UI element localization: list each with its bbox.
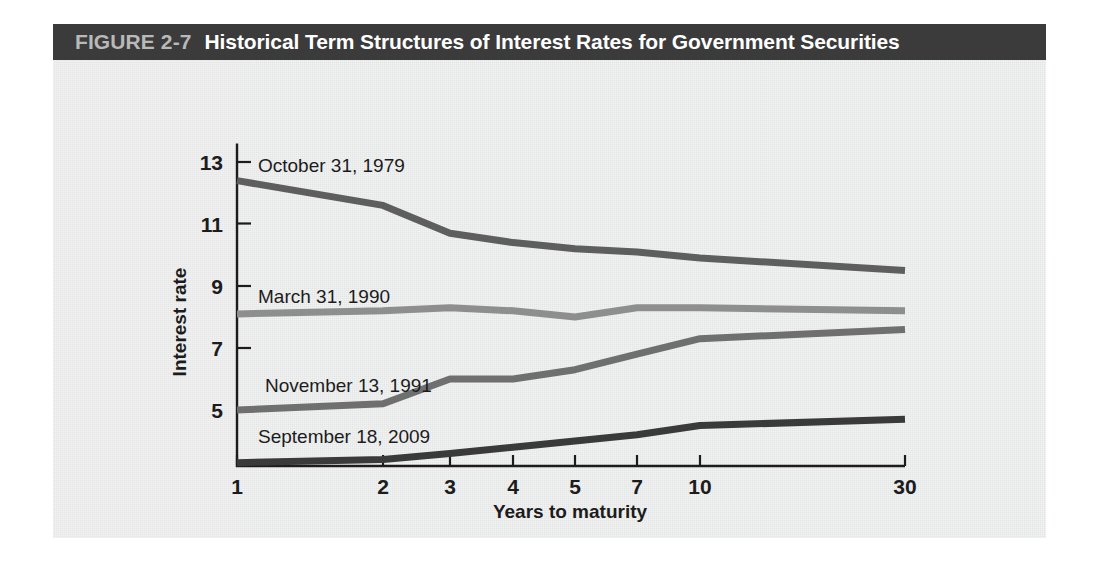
series-line-1 [237, 308, 905, 317]
y-tick-label-11: 11 [201, 213, 224, 236]
x-tick-label-30: 30 [893, 475, 916, 498]
x-tick-label-5: 5 [569, 475, 581, 498]
x-tick-label-3: 3 [444, 475, 456, 498]
x-axis-tick-labels: 1234571030 [231, 475, 917, 498]
figure-root: FIGURE 2-7 Historical Term Structures of… [0, 0, 1100, 582]
x-tick-label-2: 2 [377, 475, 389, 498]
series-label-1: March 31, 1990 [258, 286, 390, 307]
x-tick-label-10: 10 [688, 475, 711, 498]
series-line-0 [237, 181, 905, 271]
series-label-3: September 18, 2009 [258, 426, 430, 447]
y-tick-label-5: 5 [211, 399, 223, 422]
chart-plot-area: 1234571030 5791113 Years to maturity Int… [0, 0, 1100, 582]
y-tick-label-7: 7 [211, 337, 223, 360]
x-tick-label-4: 4 [507, 475, 519, 498]
y-axis-tick-marks [237, 162, 251, 410]
chart-series-group [237, 181, 905, 463]
figure-number-label: FIGURE 2-7 [75, 30, 192, 54]
y-axis-title: Interest rate [169, 268, 190, 377]
x-tick-label-7: 7 [631, 475, 643, 498]
series-line-2 [237, 329, 905, 410]
y-tick-label-9: 9 [211, 275, 223, 298]
y-tick-label-13: 13 [200, 151, 223, 174]
line-chart: 1234571030 5791113 Years to maturity Int… [0, 0, 1100, 582]
y-axis-tick-labels: 5791113 [200, 151, 224, 422]
x-tick-label-1: 1 [231, 475, 243, 498]
series-label-2: November 13, 1991 [265, 375, 432, 396]
series-label-0: October 31, 1979 [258, 155, 405, 176]
figure-title-bar: FIGURE 2-7 Historical Term Structures of… [53, 24, 1046, 60]
figure-title: Historical Term Structures of Interest R… [205, 30, 900, 54]
x-axis-title: Years to maturity [493, 501, 648, 522]
